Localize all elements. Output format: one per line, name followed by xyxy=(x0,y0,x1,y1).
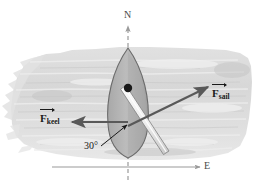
force-sail-subscript: sail xyxy=(219,92,230,101)
mast-point xyxy=(124,84,132,92)
force-sail-label: Fsail xyxy=(212,88,230,99)
north-label: N xyxy=(124,10,131,20)
angle-label: 30° xyxy=(84,141,98,151)
vector-arrow-icon xyxy=(40,109,54,110)
force-sail-symbol: F xyxy=(212,87,219,99)
force-keel-symbol: F xyxy=(40,112,47,124)
east-label: E xyxy=(204,161,210,171)
force-keel-label: Fkeel xyxy=(40,113,60,124)
sailboat-force-diagram: N E Fsail Fkeel 30° xyxy=(0,0,263,189)
vector-arrow-icon xyxy=(212,84,226,85)
force-keel-subscript: keel xyxy=(47,117,60,126)
